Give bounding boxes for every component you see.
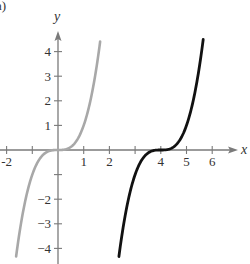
cubic-translation-chart: a) -212456−4−3−21234 x y	[0, 0, 250, 264]
x-tick-label: 2	[106, 154, 113, 169]
y-tick-label: 2	[45, 93, 52, 108]
chart-container: a) -212456−4−3−21234 x y	[0, 0, 250, 264]
x-tick-label: 4	[158, 154, 165, 169]
x-tick-label: -2	[1, 154, 12, 169]
x-axis-label: x	[240, 142, 248, 157]
x-tick-label: 5	[183, 154, 190, 169]
y-tick-label: 1	[45, 118, 52, 133]
y-tick-label: 4	[45, 44, 52, 59]
x-tick-label: 1	[80, 154, 87, 169]
y-tick-label: −2	[37, 192, 51, 207]
y-axis-label: y	[52, 9, 61, 24]
x-tick-label: 6	[209, 154, 216, 169]
axes	[0, 31, 238, 264]
panel-label: a)	[0, 0, 6, 13]
y-tick-label: −3	[37, 216, 51, 231]
y-tick-label: −4	[37, 241, 51, 256]
y-tick-label: 3	[45, 69, 52, 84]
